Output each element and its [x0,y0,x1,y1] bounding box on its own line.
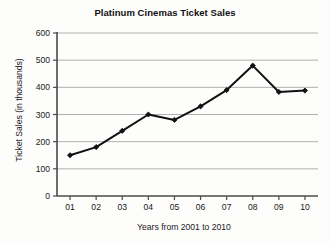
y-tick-label: 500 [36,55,51,65]
x-tick-label: 04 [144,202,154,212]
x-tick-label: 02 [91,202,101,212]
y-tick-label: 100 [36,164,51,174]
x-tick-label: 09 [274,202,284,212]
x-tick-label: 10 [300,202,310,212]
y-tick-label: 0 [45,191,50,201]
chart-figure: Platinum Cinemas Ticket Sales Ticket Sal… [0,0,330,246]
data-point-marker [67,153,72,158]
x-tick-label: 05 [170,202,180,212]
y-tick-label: 400 [36,82,51,92]
y-tick-group: 0100200300400500600 [36,28,57,201]
y-tick-label: 600 [36,28,51,38]
x-tick-label: 07 [222,202,232,212]
x-tick-label: 03 [117,202,127,212]
x-tick-label: 01 [65,202,75,212]
plot-area: 0100200300400500600 01020304050607080910 [0,0,330,246]
y-tick-label: 200 [36,137,51,147]
y-tick-label: 300 [36,110,51,120]
x-tick-group: 01020304050607080910 [65,196,310,212]
x-tick-label: 06 [196,202,206,212]
x-tick-label: 08 [248,202,258,212]
data-point-marker [302,88,307,93]
